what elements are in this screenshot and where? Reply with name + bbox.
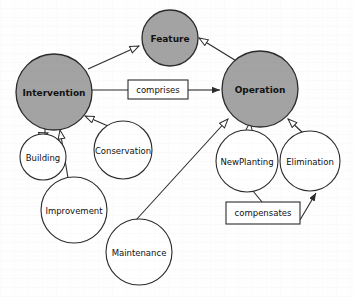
node-elimination-label: Elimination <box>286 157 334 167</box>
node-improvement[interactable]: Improvement <box>41 177 107 243</box>
node-maintenance-label: Maintenance <box>112 248 167 258</box>
edge-conservation-to-intervention <box>85 116 108 126</box>
node-building-label: Building <box>26 153 60 163</box>
node-building[interactable]: Building <box>20 134 66 180</box>
node-operation-label: Operation <box>235 85 286 95</box>
node-conservation-label: Conservation <box>95 146 151 156</box>
edge-elimination-to-operation <box>288 119 303 133</box>
node-operation[interactable]: Operation <box>222 51 298 127</box>
node-newplanting[interactable]: NewPlanting <box>216 130 278 192</box>
edge-intervention-to-feature <box>88 46 139 69</box>
label-box-comprises[interactable]: comprises <box>128 80 188 99</box>
node-improvement-label: Improvement <box>45 206 103 216</box>
node-newplanting-label: NewPlanting <box>220 157 273 167</box>
edge-newplanting-to-compensates <box>253 191 262 202</box>
edge-maintenance-to-operation <box>136 119 228 220</box>
node-feature-label: Feature <box>150 34 189 44</box>
node-maintenance[interactable]: Maintenance <box>106 219 172 285</box>
label-box-compensates[interactable]: compensates <box>226 202 300 224</box>
node-intervention-label: Intervention <box>23 88 86 98</box>
node-conservation[interactable]: Conservation <box>94 121 152 179</box>
node-group: Feature Intervention Operation Building … <box>16 10 340 285</box>
diagram-canvas: Feature Intervention Operation Building … <box>0 0 354 297</box>
label-box-compensates-label: compensates <box>235 208 292 218</box>
edge-operation-to-feature <box>199 38 238 62</box>
node-elimination[interactable]: Elimination <box>280 131 340 191</box>
label-box-comprises-label: comprises <box>136 85 180 95</box>
diagram-svg: Feature Intervention Operation Building … <box>0 0 354 297</box>
edge-compensates-to-elimination <box>300 193 316 220</box>
node-intervention[interactable]: Intervention <box>16 54 92 130</box>
node-feature[interactable]: Feature <box>142 10 198 66</box>
